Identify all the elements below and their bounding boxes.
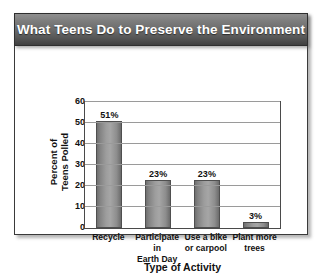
gridline [85, 122, 280, 123]
bar-slot: 23% [134, 102, 183, 228]
x-axis-category-label-line: trees [230, 243, 279, 254]
bar [96, 121, 122, 228]
bar-value-label: 23% [198, 169, 216, 179]
bar-slot: 3% [231, 102, 280, 228]
gridline [85, 143, 280, 144]
page-title: What Teens Do to Preserve the Environmen… [17, 22, 305, 37]
bar [145, 180, 171, 228]
bar [243, 222, 269, 228]
bar-value-label: 3% [249, 211, 262, 221]
chart-title-bar: What Teens Do to Preserve the Environmen… [14, 13, 308, 46]
x-axis-category-label: Recycle [84, 232, 133, 243]
plot-container: Percent of Teens Polled 0102030405060 51… [15, 47, 307, 234]
x-axis-category-label-line: Use a bike [182, 232, 231, 243]
gridline [85, 101, 280, 102]
gridline [85, 206, 280, 207]
y-axis-title-line-1: Percent of [49, 107, 60, 217]
x-axis-category-label: Plant moretrees [230, 232, 279, 254]
x-axis-category-label-line: Recycle [84, 232, 133, 243]
plot-area: 51%23%23%3% [84, 101, 281, 229]
bar-value-label: 51% [100, 110, 118, 120]
bar-slot: 51% [85, 102, 134, 228]
x-axis-category-label-line: or carpool [182, 243, 231, 254]
bar-series: 51%23%23%3% [85, 102, 280, 228]
gridline [85, 164, 280, 165]
x-axis-category-label-line: Participate in [133, 232, 182, 254]
gridline [85, 185, 280, 186]
x-axis-category-label: Use a bikeor carpool [182, 232, 231, 254]
x-axis-title: Type of Activity [84, 261, 281, 273]
bar-slot: 23% [183, 102, 232, 228]
x-axis-category-label-line: Plant more [230, 232, 279, 243]
bar-value-label: 23% [149, 169, 167, 179]
x-axis-category-labels: RecycleParticipate inEarth DayUse a bike… [84, 232, 281, 262]
bar [194, 180, 220, 228]
